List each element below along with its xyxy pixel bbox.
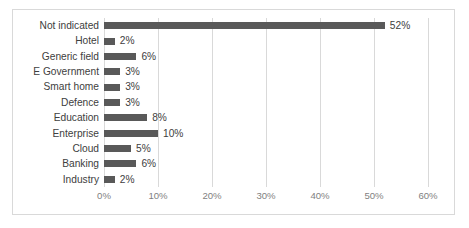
x-tick-label: 30% <box>256 188 275 204</box>
data-label: 2% <box>120 172 135 187</box>
bar-row: Not indicated52% <box>13 18 456 33</box>
bar <box>104 114 147 121</box>
category-label: Enterprise <box>13 126 99 141</box>
x-tick-label: 0% <box>97 188 111 204</box>
category-label: Banking <box>13 156 99 171</box>
bar-row: Banking6% <box>13 156 456 171</box>
bar <box>104 68 120 75</box>
bar <box>104 38 115 45</box>
data-label: 8% <box>152 110 167 125</box>
plot-area: Not indicated52%Hotel2%Generic field6%E … <box>104 18 428 187</box>
bar <box>104 176 115 183</box>
category-label: Generic field <box>13 49 99 64</box>
data-label: 3% <box>125 95 140 110</box>
bar-row: Defence3% <box>13 95 456 110</box>
category-label: Smart home <box>13 79 99 94</box>
category-label: Cloud <box>13 141 99 156</box>
x-tick-label: 50% <box>364 188 383 204</box>
x-tick-label: 60% <box>418 188 437 204</box>
category-label: Education <box>13 110 99 125</box>
bar-row: Smart home3% <box>13 79 456 94</box>
bar-row: Cloud5% <box>13 141 456 156</box>
x-tick-label: 20% <box>202 188 221 204</box>
bar <box>104 130 158 137</box>
bar-row: Hotel2% <box>13 33 456 48</box>
category-label: Industry <box>13 172 99 187</box>
data-label: 3% <box>125 79 140 94</box>
x-tick-label: 10% <box>148 188 167 204</box>
category-label: Defence <box>13 95 99 110</box>
data-label: 3% <box>125 64 140 79</box>
bar-rows: Not indicated52%Hotel2%Generic field6%E … <box>104 18 428 187</box>
bar <box>104 53 136 60</box>
bar-row: Enterprise10% <box>13 126 456 141</box>
data-label: 52% <box>390 18 410 33</box>
category-label: E Government <box>13 64 99 79</box>
x-axis-tick-labels: 0%10%20%30%40%50%60% <box>104 188 428 204</box>
bar <box>104 145 131 152</box>
data-label: 6% <box>141 49 156 64</box>
bar <box>104 84 120 91</box>
bar <box>104 99 120 106</box>
category-label: Not indicated <box>13 18 99 33</box>
data-label: 5% <box>136 141 151 156</box>
data-label: 10% <box>163 126 183 141</box>
bar-row: Generic field6% <box>13 49 456 64</box>
bar <box>104 22 385 29</box>
chart-frame: Not indicated52%Hotel2%Generic field6%E … <box>12 9 455 215</box>
x-tick-label: 40% <box>310 188 329 204</box>
bar <box>104 160 136 167</box>
data-label: 6% <box>141 156 156 171</box>
bar-row: E Government3% <box>13 64 456 79</box>
bar-row: Education8% <box>13 110 456 125</box>
category-label: Hotel <box>13 33 99 48</box>
data-label: 2% <box>120 33 135 48</box>
bar-row: Industry2% <box>13 172 456 187</box>
